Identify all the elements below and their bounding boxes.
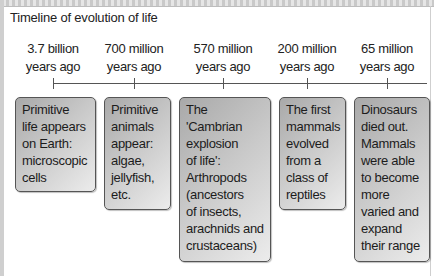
event-text-line: Primitive [22, 101, 90, 118]
timeline-tick [53, 78, 54, 89]
event-text-line: life appears [22, 118, 90, 135]
time-label-unit: years ago [8, 58, 98, 76]
event-text-line: mammals [286, 118, 340, 135]
event-text-line: animals [111, 118, 165, 135]
event-text-line: of insects, [186, 203, 265, 220]
event-text-line: from a [286, 152, 340, 169]
time-label-value: 3.7 billion [8, 40, 98, 58]
event-text-line: The [186, 101, 265, 118]
event-text-line: Arthropods [186, 169, 265, 186]
event-text-line: appear: [111, 135, 165, 152]
time-label-unit: years ago [342, 58, 432, 76]
event-text-line: on Earth: [22, 135, 90, 152]
event-text-line: expand [361, 220, 424, 237]
torn-paper-top-edge [0, 0, 434, 7]
event-box-first-mammals: The first mammals evolved from a class o… [279, 97, 346, 210]
event-text-line: arachnids and [186, 220, 265, 237]
diagram-title: Timeline of evolution of life [10, 10, 158, 25]
time-label-700-million: 700 million years ago [89, 40, 179, 76]
event-box-primitive-animals: Primitive animals appear: algae, jellyfi… [104, 97, 171, 210]
event-box-dinosaurs-died: Dinosaurs died out. Mammals were able to… [354, 97, 430, 262]
event-text-line: jellyfish, [111, 169, 165, 186]
event-text-line: Primitive [111, 101, 165, 118]
time-label-value: 200 million [262, 40, 352, 58]
event-text-line: Dinosaurs [361, 101, 424, 118]
event-text-line: died out. [361, 118, 424, 135]
timeline-tick [223, 78, 224, 89]
event-text-line: were able [361, 152, 424, 169]
timeline-axis [53, 83, 427, 84]
event-text-line: evolved [286, 135, 340, 152]
event-text-line: explosion [186, 135, 265, 152]
timeline-tick [307, 78, 308, 89]
time-label-65-million: 65 million years ago [342, 40, 432, 76]
event-text-line: varied and [361, 203, 424, 220]
event-box-primitive-life: Primitive life appears on Earth: microsc… [15, 97, 96, 192]
event-text-line: etc. [111, 186, 165, 203]
event-text-line: to become [361, 169, 424, 186]
event-text-line: microscopic [22, 152, 90, 169]
event-box-cambrian-explosion: The 'Cambrian explosion of life': Arthro… [179, 97, 271, 262]
timeline-tick [387, 78, 388, 89]
time-label-3-7-billion: 3.7 billion years ago [8, 40, 98, 76]
event-text-line: their range [361, 237, 424, 254]
time-label-value: 570 million [178, 40, 268, 58]
event-text-line: Mammals [361, 135, 424, 152]
time-label-unit: years ago [178, 58, 268, 76]
time-label-570-million: 570 million years ago [178, 40, 268, 76]
timeline-tick [134, 78, 135, 89]
event-text-line: more [361, 186, 424, 203]
time-label-value: 700 million [89, 40, 179, 58]
frame-left-edge [0, 0, 4, 276]
event-text-line: The first [286, 101, 340, 118]
event-text-line: of life': [186, 152, 265, 169]
event-text-line: class of [286, 169, 340, 186]
time-label-200-million: 200 million years ago [262, 40, 352, 76]
event-text-line: (ancestors [186, 186, 265, 203]
event-text-line: algae, [111, 152, 165, 169]
event-text-line: 'Cambrian [186, 118, 265, 135]
event-text-line: reptiles [286, 186, 340, 203]
time-label-unit: years ago [262, 58, 352, 76]
event-text-line: cells [22, 169, 90, 186]
event-text-line: crustaceans) [186, 237, 265, 254]
time-label-value: 65 million [342, 40, 432, 58]
time-label-unit: years ago [89, 58, 179, 76]
